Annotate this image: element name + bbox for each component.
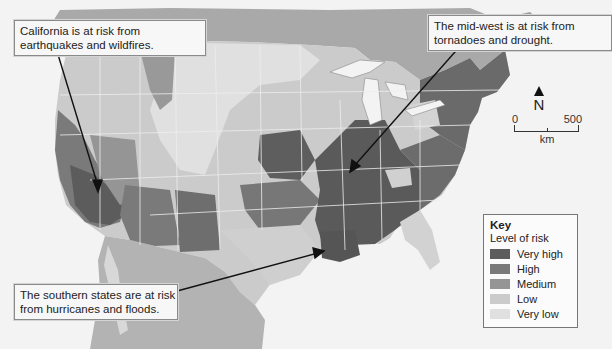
florida-low	[400, 210, 440, 270]
scale-start: 0	[512, 113, 518, 125]
swatch-very-low	[490, 309, 510, 319]
louisiana-very-high	[320, 230, 360, 262]
key-title: Key	[490, 219, 571, 231]
key-label: High	[517, 263, 540, 275]
key-row-very-low: Very low	[490, 306, 571, 321]
swatch-very-high	[490, 249, 510, 259]
callout-line: tornadoes and drought.	[434, 33, 606, 47]
scale-unit: km	[512, 133, 582, 145]
scale-bar: 0 500 km	[512, 113, 582, 145]
north-arrow-icon	[534, 86, 544, 96]
map-key: Key Level of risk Very high High Medium …	[483, 214, 578, 328]
key-subtitle: Level of risk	[490, 232, 571, 244]
callout-line: earthquakes and wildfires.	[20, 38, 200, 52]
key-label: Low	[517, 293, 537, 305]
callout-south: The southern states are at risk from hur…	[14, 284, 178, 320]
key-label: Very low	[517, 308, 559, 320]
callout-line: The mid-west is at risk from	[434, 19, 606, 33]
key-row-medium: Medium	[490, 276, 571, 291]
swatch-low	[490, 294, 510, 304]
scale-end: 500	[564, 113, 582, 125]
key-row-low: Low	[490, 291, 571, 306]
key-label: Very high	[517, 248, 563, 260]
callout-line: The southern states are at risk	[20, 288, 172, 302]
swatch-high	[490, 264, 510, 274]
callout-midwest: The mid-west is at risk from tornadoes a…	[428, 15, 612, 51]
callout-line: California is at risk from	[20, 24, 200, 38]
callout-line: from hurricanes and floods.	[20, 302, 172, 316]
newmexico-high	[175, 190, 220, 252]
scale-bar-line	[514, 125, 579, 132]
north-arrow: N	[529, 86, 549, 113]
key-row-very-high: Very high	[490, 246, 571, 261]
key-label: Medium	[517, 278, 556, 290]
swatch-medium	[490, 279, 510, 289]
key-row-high: High	[490, 261, 571, 276]
north-label: N	[529, 96, 549, 113]
callout-california: California is at risk from earthquakes a…	[14, 20, 206, 56]
